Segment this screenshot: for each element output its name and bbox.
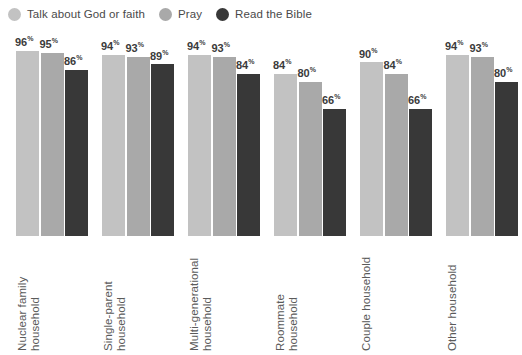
bar[interactable] [446, 55, 469, 236]
bar[interactable] [237, 74, 260, 236]
bar-value-label: 93% [126, 41, 144, 54]
bar-group: 84%80%66% [274, 24, 346, 236]
bar[interactable] [16, 51, 39, 236]
bar-value-label: 89% [150, 49, 168, 62]
bar-value-label: 94% [187, 39, 205, 52]
bar[interactable] [102, 55, 125, 236]
bar[interactable] [471, 57, 494, 236]
bar[interactable] [151, 64, 174, 236]
legend-label: Pray [178, 8, 202, 20]
category-axis: Nuclear familyhouseholdSingle-parenthous… [0, 238, 522, 355]
circle-icon [8, 8, 21, 21]
bar-value-label: 94% [445, 39, 463, 52]
bar-group: 94%93%80% [446, 24, 518, 236]
chart-legend: Talk about God or faith Pray Read the Bi… [8, 4, 326, 24]
bar-group: 90%84%66% [360, 24, 432, 236]
circle-icon [216, 8, 229, 21]
bar-value-label: 80% [298, 66, 316, 79]
bar-group: 94%93%89% [102, 24, 174, 236]
bar-chart: Talk about God or faith Pray Read the Bi… [0, 0, 522, 355]
bar-value-label: 84% [273, 58, 291, 71]
legend-item-pray[interactable]: Pray [159, 8, 202, 21]
bar-value-label: 93% [212, 41, 230, 54]
bar-value-label: 96% [15, 35, 33, 48]
bar-value-label: 84% [384, 58, 402, 71]
circle-icon [159, 8, 172, 21]
bar[interactable] [299, 82, 322, 236]
bar[interactable] [274, 74, 297, 236]
bar-value-label: 95% [40, 37, 58, 50]
bar[interactable] [409, 109, 432, 236]
bar[interactable] [213, 57, 236, 236]
bar[interactable] [41, 53, 64, 236]
bar[interactable] [323, 109, 346, 236]
legend-item-bible[interactable]: Read the Bible [216, 8, 312, 21]
bar[interactable] [360, 62, 383, 236]
bar-group: 94%93%84% [188, 24, 260, 236]
bar[interactable] [385, 74, 408, 236]
bar[interactable] [495, 82, 518, 236]
bar-value-label: 93% [470, 41, 488, 54]
bar-value-label: 66% [408, 93, 426, 106]
bar-group: 96%95%86% [16, 24, 88, 236]
bar-value-label: 84% [236, 58, 254, 71]
bar[interactable] [65, 70, 88, 236]
bar-value-label: 66% [322, 93, 340, 106]
bar-value-label: 86% [64, 54, 82, 67]
legend-item-talk[interactable]: Talk about God or faith [8, 8, 145, 21]
legend-label: Read the Bible [235, 8, 312, 20]
plot-area: 96%95%86%94%93%89%94%93%84%84%80%66%90%8… [0, 24, 522, 236]
bar-value-label: 94% [101, 39, 119, 52]
bar-value-label: 80% [494, 66, 512, 79]
legend-label: Talk about God or faith [27, 8, 145, 20]
bar[interactable] [127, 57, 150, 236]
bar[interactable] [188, 55, 211, 236]
bar-value-label: 90% [359, 47, 377, 60]
